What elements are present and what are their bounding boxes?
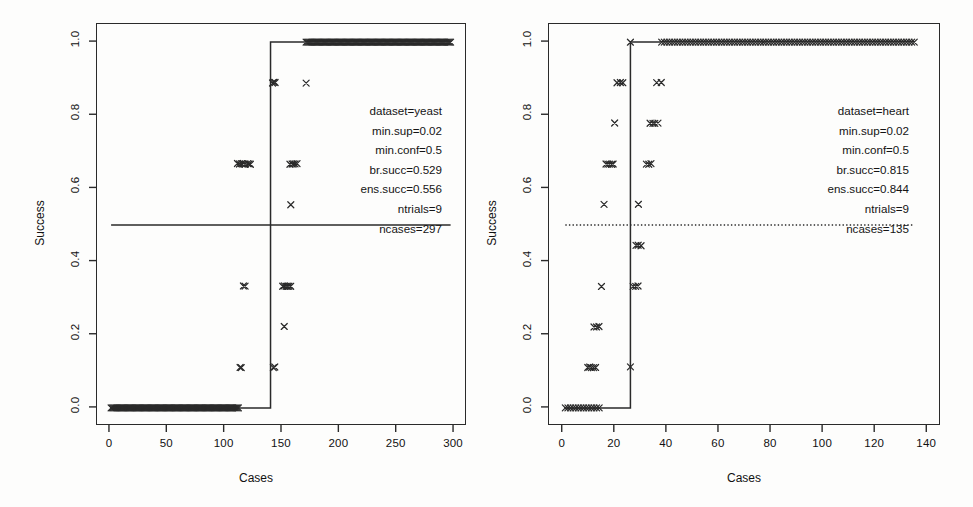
y-axis-title-heart: Success: [485, 200, 499, 245]
x-tick-label: 150: [271, 437, 291, 449]
x-tick-label: 140: [916, 437, 936, 449]
x-tick-label: 100: [214, 437, 234, 449]
y-tick-label: 0.6: [521, 174, 533, 196]
y-tick-label: 1.0: [521, 28, 533, 50]
x-axis-title-heart: Cases: [727, 471, 761, 485]
x-tick-label: 60: [711, 437, 724, 449]
y-tick-label: 0.8: [69, 101, 81, 123]
annotation-block-heart: dataset=heart min.sup=0.02 min.conf=0.5 …: [777, 101, 909, 238]
y-tick-label: 0.4: [521, 248, 533, 270]
x-tick-label: 120: [864, 437, 884, 449]
y-axis-title-yeast: Success: [33, 200, 47, 245]
x-tick-label: 250: [386, 437, 406, 449]
y-tick-label: 0.0: [69, 394, 81, 416]
y-tick-label: 0.0: [521, 394, 533, 416]
x-tick-label: 20: [607, 437, 620, 449]
annot-ncases: ncases=135: [777, 219, 909, 239]
x-axis-title-yeast: Cases: [239, 471, 273, 485]
y-tick-label: 0.8: [521, 101, 533, 123]
annot-min-sup: min.sup=0.02: [777, 121, 909, 141]
annotation-block-yeast: dataset=yeast min.sup=0.02 min.conf=0.5 …: [310, 101, 442, 238]
x-tick-label: 300: [443, 437, 463, 449]
annot-ntrials: ntrials=9: [777, 199, 909, 219]
x-tick-label: 80: [763, 437, 776, 449]
y-tick-label: 0.6: [69, 174, 81, 196]
annot-min-conf: min.conf=0.5: [310, 140, 442, 160]
x-tick-label: 0: [558, 437, 565, 449]
y-tick-label: 0.4: [69, 248, 81, 270]
annot-dataset: dataset=heart: [777, 101, 909, 121]
annot-ens-succ: ens.succ=0.556: [310, 179, 442, 199]
annot-br-succ: br.succ=0.529: [310, 160, 442, 180]
y-tick-label: 0.2: [521, 321, 533, 343]
annot-br-succ: br.succ=0.815: [777, 160, 909, 180]
y-tick-label: 1.0: [69, 28, 81, 50]
x-tick-label: 100: [812, 437, 832, 449]
annot-min-sup: min.sup=0.02: [310, 121, 442, 141]
annot-ens-succ: ens.succ=0.844: [777, 179, 909, 199]
chart-panel-heart: 0.00.20.40.60.81.0 020406080100120140 Ca…: [487, 0, 973, 507]
annot-dataset: dataset=yeast: [310, 101, 442, 121]
annot-ntrials: ntrials=9: [310, 199, 442, 219]
x-tick-label: 50: [160, 437, 173, 449]
x-tick-label: 200: [328, 437, 348, 449]
annot-ncases: ncases=297: [310, 219, 442, 239]
x-tick-label: 40: [659, 437, 672, 449]
chart-panel-yeast: 0.00.20.40.60.81.0 050100150200250300 Ca…: [0, 0, 487, 507]
y-tick-label: 0.2: [69, 321, 81, 343]
annot-min-conf: min.conf=0.5: [777, 140, 909, 160]
x-tick-label: 0: [106, 437, 113, 449]
